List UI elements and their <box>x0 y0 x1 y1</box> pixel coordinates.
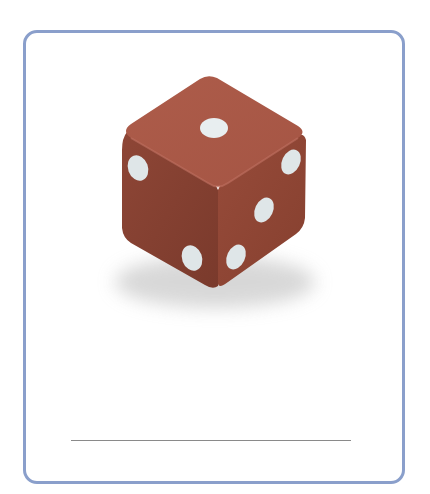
answer-line[interactable] <box>71 440 351 441</box>
die-image <box>0 0 430 494</box>
pip-top-1 <box>200 118 228 138</box>
